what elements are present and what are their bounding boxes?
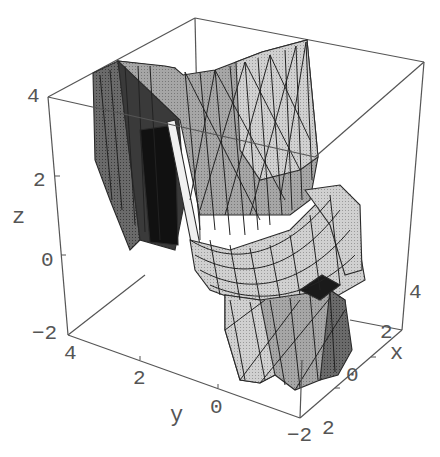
x-tick-4: 4 bbox=[409, 282, 422, 303]
surface-mesh bbox=[93, 40, 365, 390]
x-tick-2: 2 bbox=[380, 322, 393, 343]
y-tick-0: 0 bbox=[210, 397, 223, 418]
y-tick-4: 4 bbox=[64, 343, 77, 364]
surface-plot bbox=[0, 0, 440, 457]
y-tick-2: 2 bbox=[133, 368, 146, 389]
z-tick-2: 2 bbox=[33, 170, 46, 191]
z-tick-4: 4 bbox=[27, 86, 40, 107]
x-tick-minus2: 2 bbox=[322, 418, 335, 439]
z-tick-0: 0 bbox=[41, 250, 54, 271]
z-axis-label: z bbox=[12, 207, 25, 229]
y-tick-minus2: −2 bbox=[287, 425, 312, 446]
x-tick-0: 0 bbox=[346, 365, 359, 386]
y-axis-label: y bbox=[170, 405, 183, 427]
x-axis-label: x bbox=[390, 343, 403, 365]
z-tick-minus2: −2 bbox=[32, 323, 57, 344]
